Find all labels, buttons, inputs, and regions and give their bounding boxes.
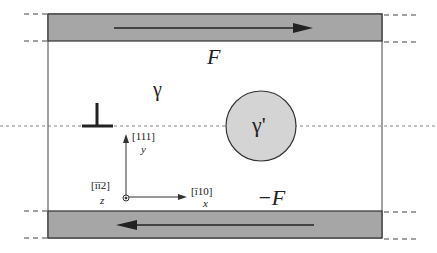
y-direction-label: [111] [132, 131, 155, 142]
z-axis-label: z [100, 195, 104, 206]
y-axis-label: y [141, 144, 146, 155]
x-axis-label: x [203, 198, 208, 209]
x-direction-label: [ī10] [191, 186, 212, 197]
bottom-force-label: −F [257, 187, 285, 209]
diagram-canvas [0, 0, 437, 253]
z-direction-label: [īī2] [91, 180, 110, 191]
precipitate-phase-label: γ' [252, 114, 266, 136]
top-force-label: F [207, 46, 220, 68]
matrix-phase-label: γ [153, 79, 162, 99]
